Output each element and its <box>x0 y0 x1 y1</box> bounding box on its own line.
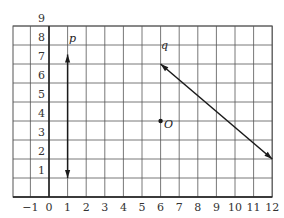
y-tick-label: 1 <box>38 164 45 177</box>
axes <box>13 26 272 197</box>
coordinate-grid: −10123456789101112123456789 p q O <box>0 0 284 218</box>
line-p <box>65 55 70 179</box>
x-tick-label: −1 <box>22 201 38 214</box>
tick-labels: −10123456789101112123456789 <box>22 12 279 214</box>
y-tick-label: 8 <box>38 31 45 44</box>
line-q-label: q <box>161 39 168 52</box>
x-tick-label: 3 <box>101 201 108 214</box>
points <box>158 119 162 123</box>
line-p-label: p <box>69 32 76 45</box>
y-tick-label: 2 <box>38 145 45 158</box>
y-tick-label: 5 <box>38 88 45 101</box>
lines <box>65 55 272 179</box>
y-tick-label: 3 <box>38 126 45 139</box>
y-tick-label: 6 <box>38 69 45 82</box>
x-tick-label: 11 <box>247 201 261 214</box>
x-tick-label: 10 <box>228 201 242 214</box>
x-tick-label: 6 <box>157 201 164 214</box>
x-tick-label: 8 <box>194 201 201 214</box>
y-tick-label: 7 <box>38 50 45 63</box>
x-tick-label: 7 <box>176 201 183 214</box>
point-o-label: O <box>164 118 173 131</box>
x-tick-label: 0 <box>46 201 53 214</box>
x-tick-label: 1 <box>64 201 71 214</box>
y-tick-label: 9 <box>38 12 45 25</box>
x-tick-label: 12 <box>265 201 279 214</box>
arrowhead-icon <box>65 55 70 63</box>
arrowhead-icon <box>65 170 70 178</box>
point-O <box>158 119 162 123</box>
x-tick-label: 5 <box>139 201 146 214</box>
y-tick-label: 4 <box>38 107 45 120</box>
grid-lines <box>13 26 272 197</box>
x-tick-label: 2 <box>83 201 90 214</box>
x-tick-label: 9 <box>213 201 220 214</box>
x-tick-label: 4 <box>120 201 127 214</box>
grid-border <box>13 26 272 197</box>
